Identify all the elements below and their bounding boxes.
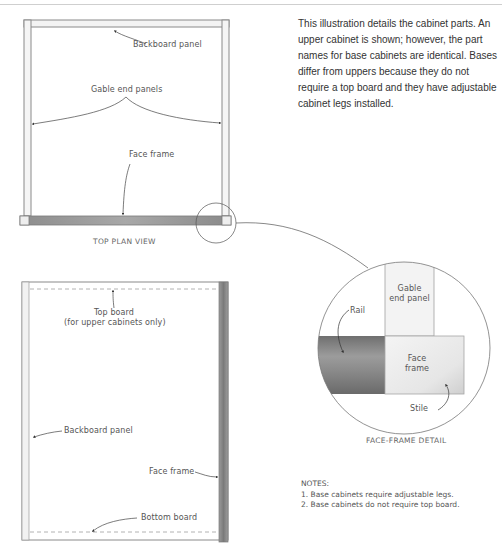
label-rail: Rail (350, 306, 365, 315)
label-gable-end-panels: Gable end panels (91, 85, 162, 94)
label-face-frame-front: Face frame (149, 467, 194, 476)
label-backboard-panel-top: Backboard panel (133, 40, 202, 49)
label-stile: Stile (410, 404, 428, 413)
label-backboard-panel-front: Backboard panel (64, 426, 133, 435)
notes-block: NOTES: 1. Base cabinets require adjustab… (301, 479, 460, 511)
label-face-frame-top: Face frame (129, 150, 174, 159)
label-gable-end-panel: Gable (385, 284, 434, 293)
face-frame-detail (310, 250, 490, 434)
note-item: 1. Base cabinets require adjustable legs… (301, 490, 460, 501)
label-top-board-note: (for upper cabinets only) (64, 318, 164, 327)
caption-face-frame-detail: FACE-FRAME DETAIL (366, 436, 446, 445)
description-text: This illustration details the cabinet pa… (298, 16, 498, 112)
caption-top-plan-view: TOP PLAN VIEW (93, 237, 156, 246)
label-bottom-board: Bottom board (141, 513, 197, 522)
label-top-board: Top board (64, 308, 164, 317)
label-face-frame-detail-2: frame (397, 364, 437, 373)
label-face-frame-detail: Face (397, 354, 437, 363)
label-gable-end-panel-2: end panel (385, 294, 434, 303)
note-item: 2. Base cabinets do not require top boar… (301, 500, 460, 511)
notes-heading: NOTES: (301, 479, 460, 490)
